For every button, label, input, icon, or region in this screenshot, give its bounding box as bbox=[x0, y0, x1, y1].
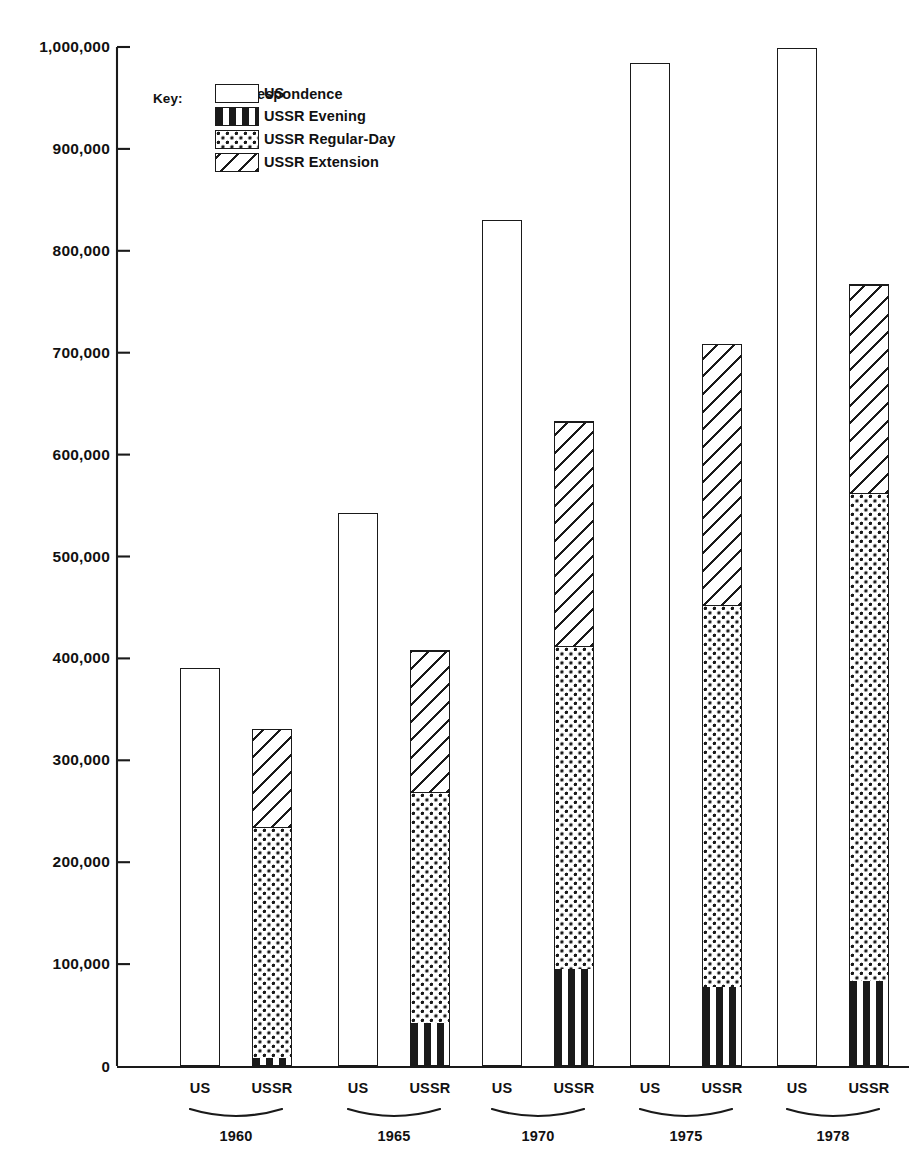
year-brace-1978 bbox=[785, 1108, 881, 1128]
x-axis-year-label: 1965 bbox=[377, 1128, 410, 1144]
bar-ussr-1978 bbox=[849, 284, 889, 1066]
x-axis-group-label-ussr-1970: USSR bbox=[553, 1080, 594, 1096]
year-brace-1970 bbox=[490, 1108, 586, 1128]
year-brace-1975 bbox=[638, 1108, 734, 1128]
year-brace-1960 bbox=[188, 1108, 284, 1128]
x-axis-group-label-us-1975: US bbox=[640, 1080, 661, 1096]
x-axis-group-label-ussr-1975: USSR bbox=[701, 1080, 742, 1096]
bar-segment-extension-1960 bbox=[253, 729, 291, 827]
bar-ussr-1975 bbox=[702, 344, 742, 1066]
bar-segment-day-1975 bbox=[703, 605, 741, 987]
bar-segment-day-1978 bbox=[850, 493, 888, 981]
bar-us-1965 bbox=[338, 513, 378, 1066]
bar-segment-extension-1965 bbox=[411, 651, 449, 792]
x-axis-year-label: 1975 bbox=[669, 1128, 702, 1144]
bar-ussr-1970 bbox=[554, 421, 594, 1066]
x-axis-group-label-us-1965: US bbox=[348, 1080, 369, 1096]
bar-us-1975 bbox=[630, 63, 670, 1066]
bar-segment-extension-1970 bbox=[555, 422, 593, 646]
bar-segment-evening-1960 bbox=[253, 1058, 291, 1066]
bar-segment-day-1965 bbox=[411, 792, 449, 1023]
x-axis-line bbox=[117, 1066, 909, 1068]
bar-segment-day-1970 bbox=[555, 646, 593, 969]
x-axis-year-label: 1970 bbox=[521, 1128, 554, 1144]
x-axis-group-label-ussr-1978: USSR bbox=[848, 1080, 889, 1096]
bar-segment-evening-1978 bbox=[850, 981, 888, 1066]
bar-segment-extension-1975 bbox=[703, 344, 741, 605]
bar-ussr-1965 bbox=[410, 650, 450, 1066]
x-axis-year-label: 1978 bbox=[816, 1128, 849, 1144]
bar-us-1970 bbox=[482, 220, 522, 1066]
bar-ussr-1960 bbox=[252, 729, 292, 1066]
bar-segment-evening-1965 bbox=[411, 1023, 449, 1066]
bar-segment-evening-1970 bbox=[555, 969, 593, 1066]
year-brace-1965 bbox=[346, 1108, 442, 1128]
x-axis-group-label-us-1978: US bbox=[787, 1080, 808, 1096]
bar-segment-evening-1975 bbox=[703, 987, 741, 1066]
bar-segment-extension-1978 bbox=[850, 285, 888, 493]
bar-segment-day-1960 bbox=[253, 827, 291, 1057]
x-axis-group-label-us-1970: US bbox=[492, 1080, 513, 1096]
bar-us-1978 bbox=[777, 48, 817, 1066]
x-axis-group-label-ussr-1965: USSR bbox=[409, 1080, 450, 1096]
x-axis-year-label: 1960 bbox=[219, 1128, 252, 1144]
x-axis-group-label-ussr-1960: USSR bbox=[251, 1080, 292, 1096]
x-axis-group-label-us-1960: US bbox=[190, 1080, 211, 1096]
bar-us-1960 bbox=[180, 668, 220, 1066]
